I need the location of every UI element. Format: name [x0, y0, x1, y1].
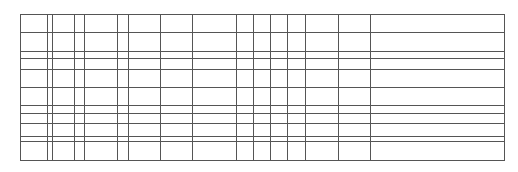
grid-horizontal-line — [20, 14, 505, 15]
grid-horizontal-line — [20, 136, 505, 137]
grid-horizontal-line — [20, 69, 505, 70]
empty-table-grid — [0, 0, 518, 172]
grid-horizontal-line — [20, 87, 505, 88]
grid-horizontal-line — [20, 123, 505, 124]
grid-horizontal-line — [20, 105, 505, 106]
grid-horizontal-line — [20, 51, 505, 52]
grid-horizontal-line — [20, 58, 505, 59]
grid-horizontal-line — [20, 141, 505, 142]
grid-horizontal-line — [20, 113, 505, 114]
grid-horizontal-line — [20, 160, 505, 161]
grid-horizontal-line — [20, 32, 505, 33]
